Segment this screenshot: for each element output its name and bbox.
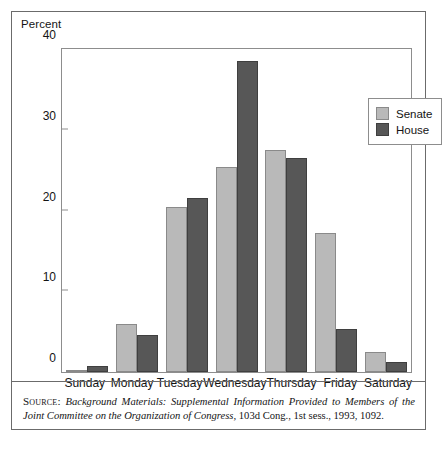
x-tick-label: Monday [108, 376, 155, 390]
x-axis-labels: SundayMondayTuesdayWednesdayThursdayFrid… [61, 376, 412, 390]
legend-swatch-house-icon [376, 123, 389, 136]
bar-house [187, 198, 208, 372]
x-tick-label: Saturday [364, 376, 412, 390]
y-tick-label: 40 [43, 28, 56, 42]
bar-senate [166, 207, 187, 372]
y-tick-label: 20 [43, 190, 56, 204]
x-tick-label: Friday [317, 376, 364, 390]
bar-group [62, 49, 112, 372]
source-roman-text: 103d Cong., 1st sess., 1993, 1092. [239, 410, 384, 421]
source-note: Source: Background Materials: Supplement… [23, 394, 415, 423]
bar-senate [365, 352, 386, 372]
bar-house [286, 158, 307, 372]
bar-series-container [62, 49, 411, 372]
y-tick-label: 0 [49, 351, 56, 365]
chart-legend: Senate House [368, 98, 442, 145]
bar-house [87, 366, 108, 372]
y-tick-label: 30 [43, 109, 56, 123]
bar-senate [315, 233, 336, 372]
bar-group [162, 49, 212, 372]
bar-senate [265, 150, 286, 372]
bar-senate [66, 370, 87, 372]
bar-house [237, 61, 258, 372]
plot-area: 010203040 Senate House [61, 48, 412, 373]
bar-senate [116, 324, 137, 372]
y-tick-label: 10 [43, 270, 56, 284]
bar-group [112, 49, 162, 372]
source-label: Source: [23, 395, 61, 407]
source-divider [12, 381, 425, 382]
x-tick-label: Wednesday [203, 376, 266, 390]
figure-panel: Percent 010203040 Senate House SundayMon… [11, 11, 426, 430]
legend-label-senate: Senate [396, 108, 432, 120]
legend-label-house: House [396, 124, 429, 136]
bar-group [311, 49, 361, 372]
bar-group [212, 49, 262, 372]
x-tick-label: Sunday [61, 376, 108, 390]
bar-senate [216, 167, 237, 372]
bar-house [137, 335, 158, 372]
bar-house [386, 362, 407, 372]
x-tick-label: Tuesday [156, 376, 203, 390]
legend-swatch-senate-icon [376, 107, 389, 120]
bar-group [261, 49, 311, 372]
legend-item-senate: Senate [376, 107, 432, 120]
legend-item-house: House [376, 123, 432, 136]
bar-house [336, 329, 357, 372]
x-tick-label: Thursday [267, 376, 317, 390]
